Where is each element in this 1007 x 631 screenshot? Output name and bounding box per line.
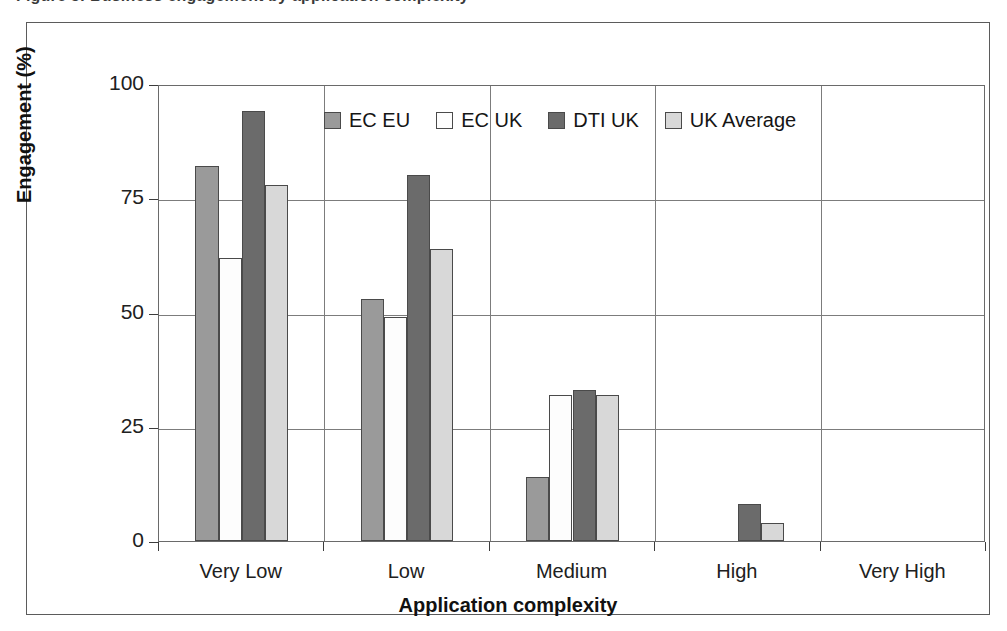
y-tick-mark-50 [149,314,158,315]
legend-label: EC EU [349,110,410,130]
legend-label: UK Average [690,110,796,130]
legend-label: EC UK [461,110,522,130]
figure-caption-strip: Figure 5: Business engagement by applica… [0,0,1007,16]
y-tick-label-100: 100 [84,71,144,95]
legend-item-ec-uk[interactable]: EC UK [436,110,522,130]
legend-item-uk-average[interactable]: UK Average [665,110,796,130]
bar-ec-eu-medium [526,477,549,541]
plot-area: EC EUEC UKDTI UKUK Average [158,85,985,542]
bar-dti-uk-high [738,504,761,541]
bar-uk-average-high [761,523,784,541]
bar-ec-uk-low [384,317,407,541]
y-tick-mark-0 [149,542,158,543]
x-tick-label-very-low: Very Low [158,560,323,583]
category-separator-1 [324,86,325,541]
legend-item-ec-eu[interactable]: EC EU [324,110,410,130]
chart-legend: EC EUEC UKDTI UKUK Average [324,110,796,130]
y-axis-title: Engagement (%) [13,46,36,203]
figure-caption: Figure 5: Business engagement by applica… [16,0,469,5]
x-tick-label-very-high: Very High [820,560,985,583]
bar-dti-uk-very-low [242,111,265,541]
bar-dti-uk-low [407,175,430,541]
category-separator-3 [655,86,656,541]
category-separator-2 [490,86,491,541]
x-tick-mark-0 [158,542,159,551]
legend-label: DTI UK [573,110,639,130]
x-tick-label-high: High [654,560,819,583]
legend-swatch-icon-dti-uk [548,112,565,129]
bar-uk-average-medium [596,395,619,541]
bar-uk-average-low [430,249,453,541]
x-tick-mark-4 [820,542,821,551]
x-axis-title: Application complexity [27,594,989,617]
category-separator-4 [821,86,822,541]
y-tick-label-25: 25 [84,414,144,438]
y-tick-mark-75 [149,199,158,200]
bar-ec-uk-medium [549,395,572,541]
legend-swatch-icon-uk-average [665,112,682,129]
bar-uk-average-very-low [265,185,288,541]
y-tick-mark-100 [149,85,158,86]
x-tick-label-medium: Medium [489,560,654,583]
legend-swatch-icon-ec-eu [324,112,341,129]
x-tick-mark-3 [654,542,655,551]
bar-dti-uk-medium [573,390,596,541]
figure-frame: Engagement (%) 0255075100 EC EUEC UKDTI … [26,22,990,615]
y-tick-label-75: 75 [84,185,144,209]
legend-swatch-icon-ec-uk [436,112,453,129]
y-tick-label-0: 0 [84,528,144,552]
x-tick-mark-5 [985,542,986,551]
bar-ec-eu-very-low [195,166,218,541]
x-tick-mark-2 [489,542,490,551]
legend-item-dti-uk[interactable]: DTI UK [548,110,639,130]
y-tick-label-50: 50 [84,300,144,324]
y-tick-mark-25 [149,428,158,429]
x-tick-mark-1 [323,542,324,551]
x-tick-label-low: Low [323,560,488,583]
bar-ec-uk-very-low [219,258,242,541]
bar-ec-eu-low [361,299,384,541]
